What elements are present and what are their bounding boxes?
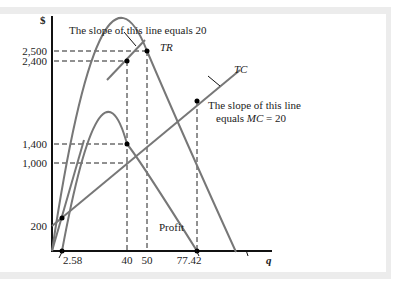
tc-line xyxy=(52,70,240,226)
x-axis-label: q xyxy=(266,254,272,266)
x-tick-50: 50 xyxy=(142,254,154,266)
x-tick-7742: 77.42 xyxy=(177,254,202,266)
y-tick-1000: 1,000 xyxy=(22,157,47,169)
y-tick-200: 200 xyxy=(31,220,48,232)
x-tick-40: 40 xyxy=(122,254,134,266)
arrow-right xyxy=(208,76,220,86)
y-tick-2400: 2,400 xyxy=(22,55,47,67)
annotation-right-line1: The slope of this line xyxy=(208,99,301,111)
x-tick-258: 2.58 xyxy=(63,254,83,266)
annotation-top: The slope of this line equals 20 xyxy=(69,24,207,36)
tr-label: TR xyxy=(160,41,173,53)
profit-label: Profit xyxy=(159,221,184,233)
tc-label: TC xyxy=(234,63,248,75)
y-axis-label: $ xyxy=(40,14,46,26)
annotation-right-line2: equals MC = 20 xyxy=(216,112,287,124)
profit-maximization-chart: $ q The slope of this line equals 20 TR … xyxy=(0,0,400,287)
tr-curve xyxy=(52,18,236,252)
y-tick-1400: 1,400 xyxy=(22,138,47,150)
